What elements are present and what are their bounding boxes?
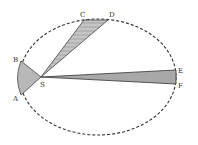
label-f: F [178, 82, 183, 90]
label-a: A [12, 95, 19, 103]
label-e: E [178, 67, 183, 75]
sector-ef [41, 70, 176, 84]
sector-cd [41, 20, 108, 77]
sector-ab [18, 61, 41, 95]
kepler-orbit-diagram: B A S C D E F [0, 0, 198, 145]
label-d: D [109, 11, 115, 19]
label-c: C [80, 11, 85, 19]
label-b: B [13, 56, 18, 64]
label-s: S [40, 81, 45, 89]
